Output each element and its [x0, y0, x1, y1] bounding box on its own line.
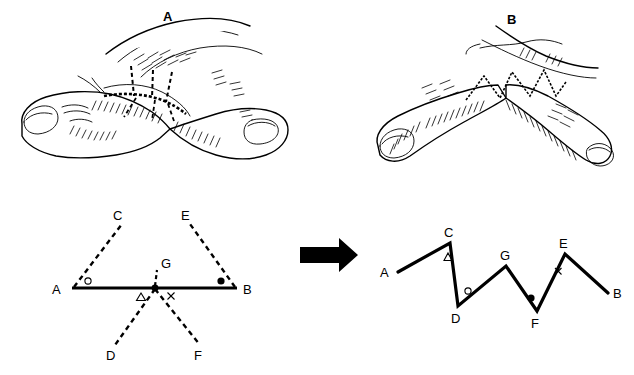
marker-circle-open — [85, 278, 91, 284]
marker-circle-open — [465, 288, 471, 294]
label-point-g: G — [161, 256, 171, 271]
right-finger-outline — [170, 109, 288, 159]
panel-a-hand-illustration — [22, 19, 288, 159]
label-point-b: B — [613, 286, 622, 301]
transform-arrow — [300, 238, 358, 272]
figure-root: A B — [0, 0, 634, 375]
schematic-after: A C D G F E B — [380, 225, 622, 331]
b-dorsum-outline — [496, 26, 598, 68]
node-g — [152, 285, 159, 292]
label-point-d: D — [451, 311, 460, 326]
b-knuckle-contour-2 — [466, 44, 480, 54]
b-left-finger-outline — [377, 85, 506, 161]
illustration-layer: A B C E G D F A C D G F E B — [0, 0, 634, 375]
schematic-before: A B C E G D F — [52, 208, 252, 363]
label-point-f: F — [531, 316, 539, 331]
line-g-stub — [155, 270, 157, 286]
arrow-icon — [300, 238, 358, 272]
line-g-f — [155, 289, 200, 345]
panel-b-hand-illustration — [377, 26, 614, 166]
incision-limb-c — [131, 66, 134, 96]
label-point-c: C — [113, 208, 122, 223]
marker-circle-filled — [527, 294, 534, 301]
label-point-e: E — [181, 208, 190, 223]
label-point-e: E — [559, 236, 568, 251]
label-point-a: A — [52, 282, 61, 297]
label-point-g: G — [500, 248, 510, 263]
line-a-c — [74, 224, 122, 287]
label-point-c: C — [444, 225, 453, 240]
incision-limb-g — [152, 70, 153, 98]
marker-circle-filled — [217, 277, 224, 284]
label-point-b: B — [243, 282, 252, 297]
knuckle-contour-upper-2 — [141, 46, 262, 77]
line-g-d — [115, 289, 155, 345]
b-right-finger-outline — [506, 85, 612, 164]
marker-cross-x — [168, 293, 175, 300]
dorsum-outline — [106, 19, 250, 54]
line-b-e — [190, 224, 235, 287]
label-point-d: D — [106, 348, 115, 363]
label-point-a: A — [380, 265, 389, 280]
marker-triangle-open — [137, 293, 146, 301]
label-point-f: F — [194, 348, 202, 363]
